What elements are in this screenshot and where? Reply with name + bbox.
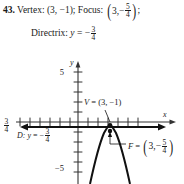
- y-axis-fraction-label: 3 4: [3, 118, 10, 134]
- right-paren: ): [132, 4, 136, 18]
- directrix-annotation-label: D: y = − 3 4: [17, 128, 51, 144]
- y-tick-label-minus-5: −5: [55, 163, 64, 173]
- directrix-annotation-variable: y: [27, 131, 31, 140]
- directrix-annotation-equals: =: [33, 131, 38, 140]
- fraction-numerator: 3: [45, 128, 51, 136]
- focus-symbol: F: [128, 141, 133, 151]
- directrix-equals: =: [77, 28, 82, 38]
- coordinate-graph: y x 5 −5: [0, 55, 184, 184]
- vertex-value: (3, −1);: [47, 5, 76, 15]
- fraction-denominator: 4: [91, 33, 97, 42]
- problem-statement-line-2: Directrix: y = − 3 4: [31, 26, 97, 42]
- graph-canvas: y x 5 −5: [0, 55, 184, 184]
- focus-equals: =: [135, 141, 140, 151]
- directrix-fraction: 3 4: [91, 26, 97, 42]
- focus-annotation-label: F = ( 3, − 5 4 ): [128, 139, 174, 155]
- directrix-annotation-fraction: 3 4: [45, 128, 51, 144]
- focus-annotation-coordinate: ( 3, − 5 4 ): [142, 139, 174, 155]
- vertex-annotation-label: V = (3, −1): [84, 98, 121, 107]
- left-paren: (: [107, 4, 111, 18]
- fraction-denominator: 4: [4, 125, 10, 134]
- focus-y-fraction: 5 4: [125, 3, 131, 19]
- directrix-annotation-sign: −: [40, 131, 45, 140]
- y-tick-label-5: 5: [60, 67, 64, 77]
- fraction-denominator: 4: [125, 10, 131, 19]
- directrix-label: Directrix:: [31, 28, 68, 38]
- right-paren: ): [169, 140, 173, 154]
- focus-x-value: 3,: [112, 6, 119, 16]
- y-axis-label: y: [69, 58, 74, 67]
- fraction-numerator: 5: [162, 139, 168, 147]
- focus-annotation-sign: −: [156, 142, 161, 152]
- vertex-point: [108, 123, 113, 128]
- fraction-numerator: 3: [4, 118, 10, 126]
- vertex-point-value: (3, −1): [98, 97, 121, 107]
- problem-number: 43.: [3, 5, 15, 15]
- left-paren: (: [143, 140, 147, 154]
- fraction-numerator: 5: [125, 3, 131, 11]
- focus-y-sign: −: [119, 6, 124, 16]
- focus-coordinate-group: ( 3, − 5 4 ): [106, 3, 138, 19]
- x-axis: [16, 118, 176, 127]
- answer-figure-43: 43. Vertex: (3, −1); Focus: ( 3, − 5 4 )…: [0, 0, 184, 184]
- focus-annotation-fraction: 5 4: [162, 139, 168, 155]
- directrix-variable: y: [70, 28, 74, 38]
- fraction-numerator: 3: [91, 26, 97, 34]
- minus-three-quarters-fraction: 3 4: [4, 118, 10, 134]
- focus-annotation-x: 3,: [149, 142, 156, 152]
- focus-trailing-semicolon: ;: [137, 5, 140, 15]
- directrix-sign: −: [85, 28, 90, 38]
- fraction-denominator: 4: [162, 146, 168, 155]
- vertex-symbol: V: [84, 97, 89, 107]
- focus-label: Focus:: [78, 5, 103, 15]
- x-axis-label: x: [162, 110, 167, 119]
- directrix-symbol: D:: [17, 131, 25, 140]
- vertex-equals: =: [91, 97, 96, 107]
- fraction-denominator: 4: [45, 135, 51, 144]
- problem-statement-line-1: 43. Vertex: (3, −1); Focus: ( 3, − 5 4 )…: [3, 3, 140, 19]
- vertex-label: Vertex:: [17, 5, 44, 15]
